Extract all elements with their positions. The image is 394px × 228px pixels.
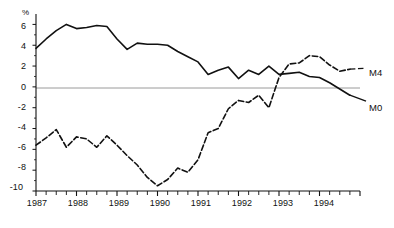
series-leader-m4 — [350, 68, 366, 69]
x-axis-ticks — [36, 191, 360, 196]
series-line-m0 — [36, 56, 350, 186]
chart-container: % 6 4 2 0 -2 -4 -6 -8 -10 1987 1988 1989… — [0, 0, 394, 228]
series-leader-m0 — [350, 95, 366, 101]
chart-plot-area — [0, 0, 394, 228]
